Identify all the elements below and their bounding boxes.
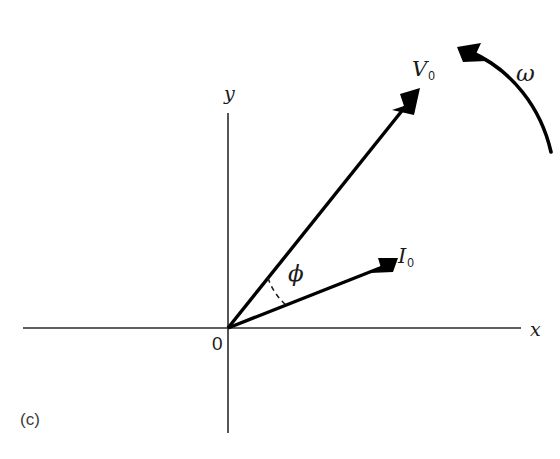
y-axis-label: y xyxy=(224,84,235,103)
phasor-diagram-canvas xyxy=(0,0,560,459)
omega-rotation-arc xyxy=(471,52,551,152)
vector-v0-label-base: V xyxy=(412,57,427,81)
vector-v0-label-subscript: 0 xyxy=(428,69,435,83)
omega-label: ω xyxy=(516,62,535,85)
origin-label: 0 xyxy=(212,334,223,353)
vector-i0-label: I0 xyxy=(398,246,413,267)
figure-caption: (c) xyxy=(20,411,40,428)
vector-v0-label: V0 xyxy=(412,59,434,80)
phi-angle-label: ϕ xyxy=(288,262,304,285)
phi-angle-arc xyxy=(268,278,287,306)
x-axis-label: x xyxy=(530,320,541,339)
vector-i0-label-subscript: 0 xyxy=(407,256,414,270)
vector-i0-label-base: I xyxy=(398,244,406,268)
vector-v0-shaft xyxy=(228,102,409,328)
phasor-diagram-figure: y x 0 V0 I0 ϕ ω (c) xyxy=(0,0,560,459)
vector-v0-arrowhead xyxy=(392,88,420,115)
omega-arrowhead xyxy=(457,43,487,62)
